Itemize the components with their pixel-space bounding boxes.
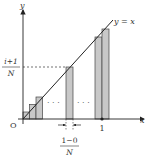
ellipsis-right: · · · [77,98,90,107]
x-tick-1-dot [100,117,103,120]
origin-label: O [10,121,17,130]
y-marker-denominator: N [7,69,15,78]
width-marker-fraction: 1−0 N [60,136,79,157]
y-marker-fraction: i+1 N [2,57,20,78]
x-tick-label-1: 1 [99,124,104,133]
bar-n-1 [95,37,102,119]
riemann-sum-diagram: · · · · · · y x O 1 y = x i+1 N 1−0 N [0,0,150,161]
bar-n [102,29,109,119]
width-marker-denominator: N [65,148,73,157]
ellipsis-left: · · · [47,98,60,107]
bar-i [66,67,73,119]
x-axis-label: x [140,116,145,125]
bar-2 [30,105,37,120]
y-axis-label: y [19,1,25,10]
y-marker-numerator: i+1 [4,57,17,66]
width-marker-numerator: 1−0 [62,136,78,145]
bar-3 [36,97,43,119]
line-label: y = x [113,17,135,26]
